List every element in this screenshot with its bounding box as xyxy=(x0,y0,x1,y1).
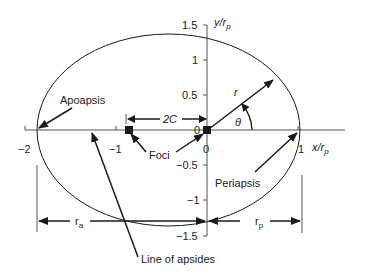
foci-arrow-right xyxy=(176,134,203,152)
y-tick-0.5: 0.5 xyxy=(182,89,197,101)
focus-empty xyxy=(125,126,133,134)
x-axis-label: x/rp xyxy=(311,141,329,156)
apoapsis-arrow xyxy=(39,108,72,128)
radius-vector xyxy=(209,80,273,129)
periapsis-label: Periapsis xyxy=(215,177,261,189)
orbit-diagram: −2 −1 0 1 x/rp 1.5 1 0.5 0 −0.5 −1 −1.5 … xyxy=(0,0,365,280)
theta-arc xyxy=(242,104,252,130)
x-tick-0: 0 xyxy=(203,143,209,155)
y-tick-neg1: −1 xyxy=(187,194,200,206)
ra-dimension: ra xyxy=(37,165,205,232)
focus-primary xyxy=(203,126,211,134)
r-label: r xyxy=(234,86,239,98)
rp-label: rp xyxy=(255,215,264,230)
theta-label: θ xyxy=(235,116,241,128)
y-tick-1.5: 1.5 xyxy=(182,19,197,31)
y-tick-neg1.5: −1.5 xyxy=(176,230,198,242)
x-axis: −2 −1 0 1 x/rp xyxy=(18,126,345,156)
two-c-label: 2C xyxy=(162,113,177,125)
line-of-apsides-label: Line of apsides xyxy=(141,253,215,265)
x-tick-neg2: −2 xyxy=(18,143,31,155)
ra-label: ra xyxy=(75,215,84,230)
foci-label: Foci xyxy=(149,149,170,161)
y-tick-1: 1 xyxy=(192,54,198,66)
foci-arrow-left xyxy=(131,134,146,152)
y-tick-0: 0 xyxy=(194,124,200,136)
x-tick-neg1: −1 xyxy=(109,143,122,155)
y-tick-neg0.5: −0.5 xyxy=(176,159,198,171)
y-axis-label: y/rp xyxy=(213,16,231,31)
apoapsis-label: Apoapsis xyxy=(60,94,106,106)
